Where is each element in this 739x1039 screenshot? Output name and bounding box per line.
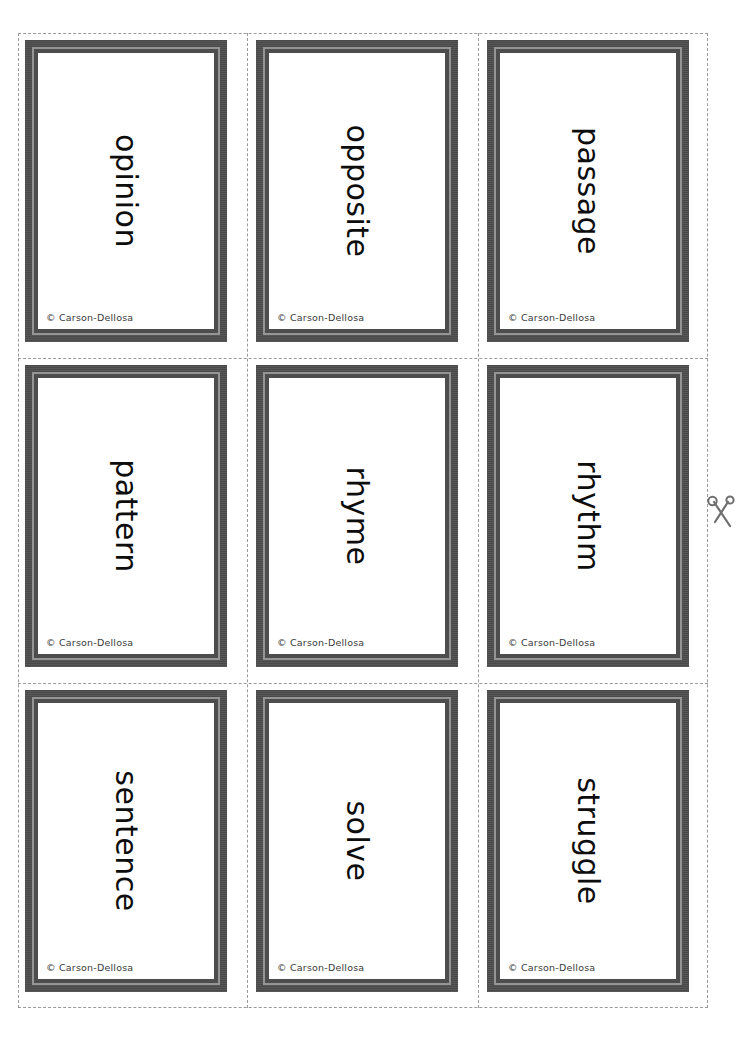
card-face: struggle© Carson-Dellosa	[500, 703, 676, 979]
flash-card[interactable]: sentence© Carson-Dellosa	[25, 690, 227, 992]
card-frame-inner: opposite© Carson-Dellosa	[263, 47, 451, 335]
card-frame-inner: rhythm© Carson-Dellosa	[494, 372, 682, 660]
card-word: rhythm	[573, 460, 603, 572]
flash-card[interactable]: opposite© Carson-Dellosa	[256, 40, 458, 342]
flash-card[interactable]: pattern© Carson-Dellosa	[25, 365, 227, 667]
card-face: rhyme© Carson-Dellosa	[269, 378, 445, 654]
card-frame-inner: passage© Carson-Dellosa	[494, 47, 682, 335]
card-frame-inner: struggle© Carson-Dellosa	[494, 697, 682, 985]
flash-card[interactable]: opinion© Carson-Dellosa	[25, 40, 227, 342]
card-grid: opinion© Carson-Dellosaopposite© Carson-…	[0, 0, 739, 1039]
flash-card[interactable]: struggle© Carson-Dellosa	[487, 690, 689, 992]
card-face: opinion© Carson-Dellosa	[38, 53, 214, 329]
flash-card[interactable]: solve© Carson-Dellosa	[256, 690, 458, 992]
card-face: passage© Carson-Dellosa	[500, 53, 676, 329]
card-word: opposite	[342, 125, 372, 258]
card-copyright: © Carson-Dellosa	[277, 312, 364, 323]
card-copyright: © Carson-Dellosa	[277, 962, 364, 973]
flash-card[interactable]: passage© Carson-Dellosa	[487, 40, 689, 342]
card-word: passage	[573, 127, 603, 255]
flash-card-sheet: opinion© Carson-Dellosaopposite© Carson-…	[0, 0, 739, 1039]
card-frame-inner: sentence© Carson-Dellosa	[32, 697, 220, 985]
card-word: solve	[342, 800, 372, 881]
card-frame-inner: solve© Carson-Dellosa	[263, 697, 451, 985]
card-copyright: © Carson-Dellosa	[277, 637, 364, 648]
card-frame-inner: pattern© Carson-Dellosa	[32, 372, 220, 660]
card-word: pattern	[111, 459, 141, 573]
card-word: rhyme	[342, 467, 372, 566]
card-copyright: © Carson-Dellosa	[46, 312, 133, 323]
card-copyright: © Carson-Dellosa	[46, 962, 133, 973]
card-word: sentence	[111, 770, 141, 911]
card-face: solve© Carson-Dellosa	[269, 703, 445, 979]
card-frame-inner: opinion© Carson-Dellosa	[32, 47, 220, 335]
card-copyright: © Carson-Dellosa	[508, 312, 595, 323]
card-word: struggle	[573, 777, 603, 905]
card-copyright: © Carson-Dellosa	[46, 637, 133, 648]
card-face: opposite© Carson-Dellosa	[269, 53, 445, 329]
card-copyright: © Carson-Dellosa	[508, 962, 595, 973]
card-frame-inner: rhyme© Carson-Dellosa	[263, 372, 451, 660]
card-word: opinion	[111, 134, 141, 248]
flash-card[interactable]: rhyme© Carson-Dellosa	[256, 365, 458, 667]
scissors-icon	[706, 492, 739, 532]
card-face: rhythm© Carson-Dellosa	[500, 378, 676, 654]
card-face: pattern© Carson-Dellosa	[38, 378, 214, 654]
card-face: sentence© Carson-Dellosa	[38, 703, 214, 979]
card-copyright: © Carson-Dellosa	[508, 637, 595, 648]
flash-card[interactable]: rhythm© Carson-Dellosa	[487, 365, 689, 667]
